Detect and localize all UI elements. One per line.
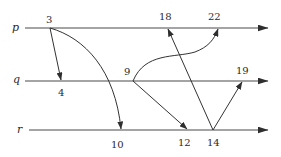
message-3-to-4 (50, 28, 61, 80)
event-label-22: 22 (208, 12, 221, 22)
process-label-q: q (13, 74, 20, 85)
event-label-12: 12 (178, 138, 191, 148)
message-9-to-22 (133, 29, 218, 81)
space-time-diagram: p q r 3 18 22 4 9 19 10 12 14 (0, 0, 281, 157)
event-label-19: 19 (236, 66, 249, 76)
message-9-to-12 (133, 81, 187, 129)
message-14-to-19 (213, 82, 242, 130)
event-label-9: 9 (124, 67, 130, 77)
event-label-14: 14 (207, 138, 220, 148)
process-label-p: p (12, 22, 19, 33)
event-label-3: 3 (46, 15, 52, 25)
message-14-to-18 (168, 29, 213, 130)
event-label-10: 10 (111, 140, 124, 150)
event-label-18: 18 (159, 12, 172, 22)
process-label-r: r (17, 124, 22, 135)
diagram-graphics (0, 0, 281, 157)
event-label-4: 4 (58, 88, 64, 98)
